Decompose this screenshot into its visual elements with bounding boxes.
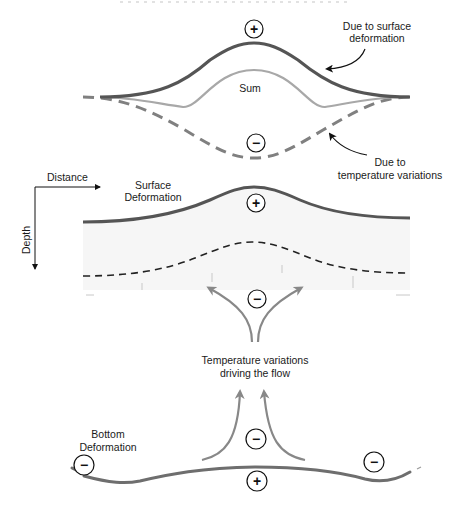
bottom-deformation-label-line1: Bottom bbox=[91, 428, 125, 440]
bottom-plus-sign: + bbox=[253, 473, 261, 489]
bottom-deformation-label-line2: Deformation bbox=[79, 441, 136, 453]
temperature-driving-label-line2: driving the flow bbox=[220, 367, 290, 379]
plus-sign: + bbox=[250, 21, 258, 37]
bottom-panel: Bottom Deformation − − − + bbox=[72, 392, 421, 491]
temperature-driving-label-line1: Temperature variations bbox=[202, 354, 309, 366]
diagram-canvas: + − Sum Due to surface deformation Due t… bbox=[0, 0, 462, 506]
surface-curve-label-line1: Due to surface bbox=[343, 20, 411, 32]
temperature-variation-curve bbox=[83, 97, 410, 158]
sum-label: Sum bbox=[239, 82, 261, 94]
surface-plus-sign: + bbox=[252, 195, 260, 211]
flow-arrow-left-lower bbox=[202, 392, 240, 460]
surface-deformation-label-line2: Deformation bbox=[124, 191, 181, 203]
flow-minus-sign: − bbox=[253, 291, 261, 307]
temperature-callout-arrow bbox=[330, 134, 367, 155]
distance-axis-label: Distance bbox=[47, 171, 88, 183]
bottom-deformation-line bbox=[72, 467, 410, 483]
surface-callout-arrow bbox=[327, 49, 365, 69]
bottom-center-minus-sign: − bbox=[252, 431, 260, 447]
bottom-right-minus-sign: − bbox=[370, 454, 378, 470]
bottom-line-end-mark bbox=[417, 467, 421, 469]
middle-panel: Distance Depth + Surface Deformation − bbox=[20, 171, 410, 342]
surface-deformation-label-line1: Surface bbox=[135, 179, 171, 191]
bottom-left-minus-sign: − bbox=[80, 457, 88, 473]
top-panel: + − Sum Due to surface deformation Due t… bbox=[83, 20, 442, 181]
temperature-curve-label-line1: Due to bbox=[375, 156, 406, 168]
flow-arrow-left-upper bbox=[209, 288, 252, 342]
depth-axis-label: Depth bbox=[20, 226, 32, 254]
temperature-curve-label-line2: temperature variations bbox=[338, 169, 442, 181]
minus-sign: − bbox=[252, 135, 260, 151]
flow-arrow-right-lower bbox=[264, 392, 305, 460]
surface-curve-label-line2: deformation bbox=[349, 32, 405, 44]
